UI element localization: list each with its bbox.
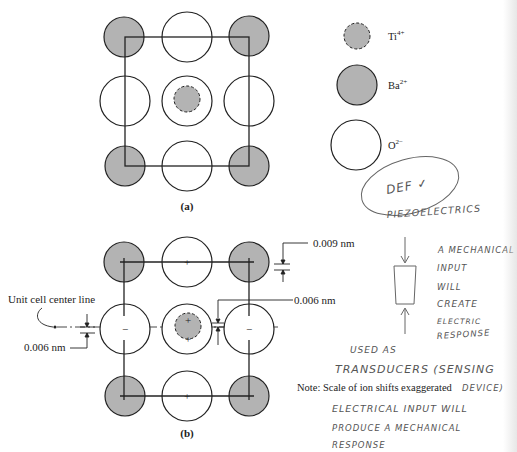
figure-a-caption: (a) (181, 200, 194, 213)
electrical-note-3: RESPONSE (332, 440, 386, 450)
legend-ba-label: Ba2+ (388, 78, 407, 91)
piezoelectric-diagram: (a) Ti4+Ba2+O2− +−−+++ 0.009 nm (0, 0, 517, 452)
device-note: DEVICE) (462, 383, 504, 393)
legend-o-label: O2− (388, 138, 403, 151)
handwritten-notes: DEF ✓ PIEZOELECTRICS A MECHANICAL INPUT … (332, 146, 515, 450)
page-edge-shadow (503, 0, 517, 452)
electrical-note-1: ELECTRICAL INPUT WILL (332, 403, 468, 414)
dimension-0006-left-marker (70, 314, 95, 348)
legend-ba-icon (337, 65, 377, 105)
charge-mark: + (185, 314, 191, 326)
legend-ti-icon (344, 23, 370, 49)
dimension-0006-left-label: 0.006 nm (24, 341, 66, 353)
note-line-6: RESPONSE (436, 327, 490, 341)
figure-a-unit-cell: (a) (100, 12, 274, 213)
center-line-label: Unit cell center line (8, 293, 95, 305)
figure-b-caption: (b) (180, 427, 194, 440)
figure-b-distorted-cell: +−−+++ 0.009 nm (8, 237, 355, 440)
center-line-leader-dot (53, 325, 56, 328)
scale-note: Note: Scale of ion shifts exaggerated (297, 382, 453, 393)
note-line-3: WILL (437, 282, 461, 292)
dimension-0009-label: 0.009 nm (313, 237, 355, 249)
charge-mark: − (246, 323, 252, 335)
piezoelectrics-heading: PIEZOELECTRICS (386, 202, 481, 220)
note-line-4: CREATE (437, 299, 478, 309)
figure-b-ions: +−−+++ (100, 237, 274, 421)
ti-ion (174, 86, 200, 112)
compression-sketch (394, 237, 416, 334)
legend-o-icon (331, 120, 381, 170)
def-mark: DEF ✓ (385, 176, 429, 197)
dimension-0009-marker (274, 243, 308, 282)
ion-legend: Ti4+Ba2+O2− (331, 23, 407, 170)
legend-ti-label: Ti4+ (388, 29, 404, 42)
figure-a-ions (100, 12, 274, 191)
charge-mark: − (122, 323, 128, 335)
center-line-leader (37, 308, 53, 327)
dimension-0006-ti-label: 0.006 nm (294, 294, 336, 306)
note-line-5: ELECTRIC (437, 317, 481, 326)
ti-original-position-mark: + (185, 334, 191, 345)
transducers-note: TRANSDUCERS (SENSING (335, 363, 495, 376)
used-as-note: USED AS (350, 345, 397, 355)
note-line-2: INPUT (437, 263, 467, 273)
electrical-note-2: PRODUCE A MECHANICAL (332, 423, 461, 433)
